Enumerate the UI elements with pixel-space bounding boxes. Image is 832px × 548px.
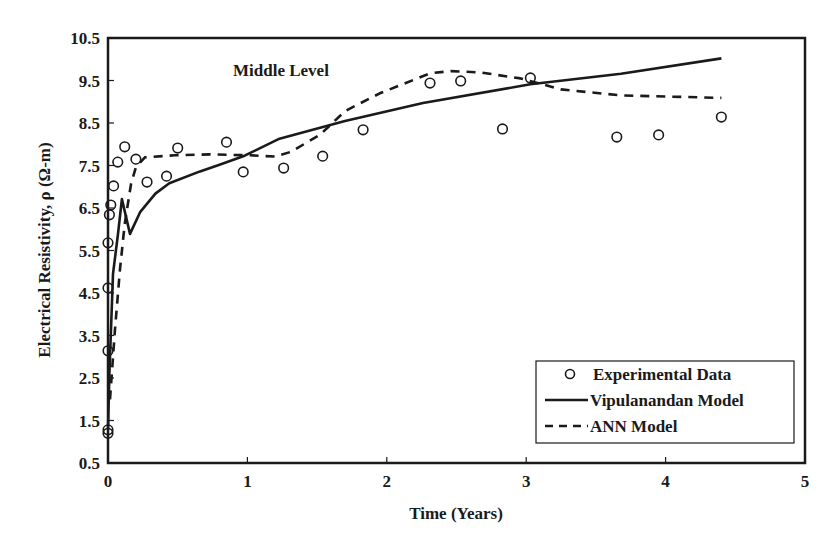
data-point	[162, 171, 172, 181]
data-point	[318, 151, 328, 161]
y-tick-label: 4.5	[79, 284, 100, 303]
data-point	[238, 167, 248, 177]
data-point	[717, 112, 727, 122]
data-point	[105, 210, 115, 220]
data-point	[131, 154, 141, 164]
chart: 0.51.52.53.54.55.56.57.58.59.510.5 01234…	[0, 0, 832, 548]
x-tick-label: 0	[104, 472, 113, 491]
data-point	[109, 181, 119, 191]
y-tick-label: 9.5	[79, 72, 100, 91]
data-point	[612, 132, 622, 142]
y-tick-label: 1.5	[79, 412, 100, 431]
data-point	[142, 177, 152, 187]
y-tick-label: 3.5	[79, 327, 100, 346]
y-tick-label: 7.5	[79, 157, 100, 176]
x-tick-label: 4	[661, 472, 670, 491]
legend-label: Experimental Data	[593, 365, 732, 384]
x-tick-label: 3	[522, 472, 531, 491]
annotation-middle-level: Middle Level	[233, 61, 329, 80]
y-tick-label: 2.5	[79, 369, 100, 388]
y-tick-label: 6.5	[79, 199, 100, 218]
data-point	[279, 163, 289, 173]
x-axis-title: Time (Years)	[409, 504, 503, 523]
data-point	[222, 137, 232, 147]
data-point	[498, 124, 508, 134]
data-point	[654, 130, 664, 140]
data-point	[358, 125, 368, 135]
legend-label: Vipulanandan Model	[590, 391, 744, 410]
y-tick-label: 5.5	[79, 242, 100, 261]
data-point	[456, 76, 466, 86]
data-point	[425, 78, 435, 88]
y-tick-label: 0.5	[79, 454, 100, 473]
data-point	[120, 142, 130, 152]
legend-label: ANN Model	[590, 417, 678, 436]
y-tick-label: 8.5	[79, 114, 100, 133]
y-axis-title: Electrical Resistivity, ρ (Ω-m)	[35, 142, 54, 357]
y-tick-label: 10.5	[70, 29, 100, 48]
x-tick-label: 1	[243, 472, 252, 491]
data-point	[173, 143, 183, 153]
legend: Experimental Data Vipulanandan Model ANN…	[536, 361, 794, 443]
x-tick-label: 2	[383, 472, 392, 491]
x-tick-label: 5	[801, 472, 810, 491]
data-point	[113, 157, 123, 167]
ann-model-line	[110, 71, 721, 399]
